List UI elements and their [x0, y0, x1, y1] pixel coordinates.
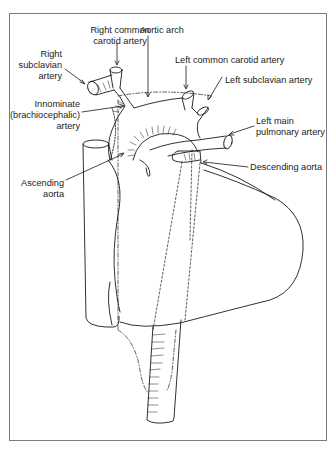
label-line: artery — [14, 71, 62, 82]
label-innominate-artery: Innominate (brachiocephalic) artery — [10, 99, 80, 132]
pericardium-dashed-outline — [118, 92, 212, 393]
label-right-subclavian-artery: Right subclavian artery — [14, 49, 62, 82]
label-descending-aorta: Descending aorta — [250, 162, 322, 173]
label-line: aorta — [10, 189, 64, 200]
label-line: Ascending — [10, 178, 64, 189]
label-line: (brachiocephalic) — [10, 110, 80, 121]
thoracic-aorta-tube — [147, 320, 181, 423]
descending-aorta-shape — [172, 151, 275, 200]
label-ascending-aorta: Ascending aorta — [10, 178, 64, 200]
label-line: Right — [14, 49, 62, 60]
label-left-main-pulmonary-artery: Left main pulmonary artery — [256, 116, 325, 138]
label-line: Left main — [256, 116, 325, 127]
left-pulmonary-artery-shape — [150, 134, 234, 156]
heart-outline — [108, 108, 303, 326]
label-line: artery — [10, 121, 80, 132]
label-line: subclavian — [14, 60, 62, 71]
label-line: pulmonary artery — [256, 127, 325, 138]
label-left-subclavian-artery: Left subclavian artery — [225, 75, 312, 86]
label-line: carotid artery — [86, 36, 154, 47]
label-left-common-carotid-artery: Left common carotid artery — [175, 55, 284, 66]
label-line: Innominate — [10, 99, 80, 110]
label-aortic-arch: Aortic arch — [140, 25, 184, 36]
descending-aorta-hidden-dashed — [153, 150, 200, 330]
